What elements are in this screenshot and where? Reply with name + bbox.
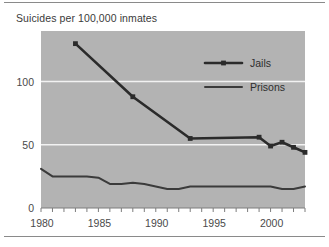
chart-figure: Suicides per 100,000 inmates 050100 1980… (0, 0, 329, 247)
x-axis-tick-label: 1990 (145, 217, 169, 229)
y-axis-tick-labels: 050100 (16, 76, 34, 214)
data-point-marker (280, 140, 285, 145)
legend-label-jails: Jails (250, 57, 271, 69)
data-point-marker (188, 136, 193, 141)
data-point-marker (303, 150, 308, 155)
y-axis-tick-label: 50 (22, 139, 34, 151)
y-axis-tick-label: 0 (28, 202, 34, 214)
data-point-marker (291, 145, 296, 150)
data-point-marker (257, 135, 262, 140)
data-point-marker (130, 94, 135, 99)
legend-label-prisons: Prisons (250, 81, 285, 93)
x-axis-tick-labels: 19801985199019952000 (30, 217, 283, 229)
y-axis-tick-label: 100 (16, 76, 34, 88)
data-point-marker (73, 41, 78, 46)
data-point-marker (268, 144, 273, 149)
legend-marker (221, 61, 226, 66)
line-chart-plot: 050100 19801985199019952000 JailsPrisons (0, 0, 329, 247)
x-axis-tick-label: 2000 (260, 217, 284, 229)
x-axis-tick-label: 1980 (30, 217, 54, 229)
x-axis-tick-label: 1985 (88, 217, 112, 229)
x-axis-ticks (41, 208, 305, 212)
x-axis-tick-label: 1995 (202, 217, 226, 229)
